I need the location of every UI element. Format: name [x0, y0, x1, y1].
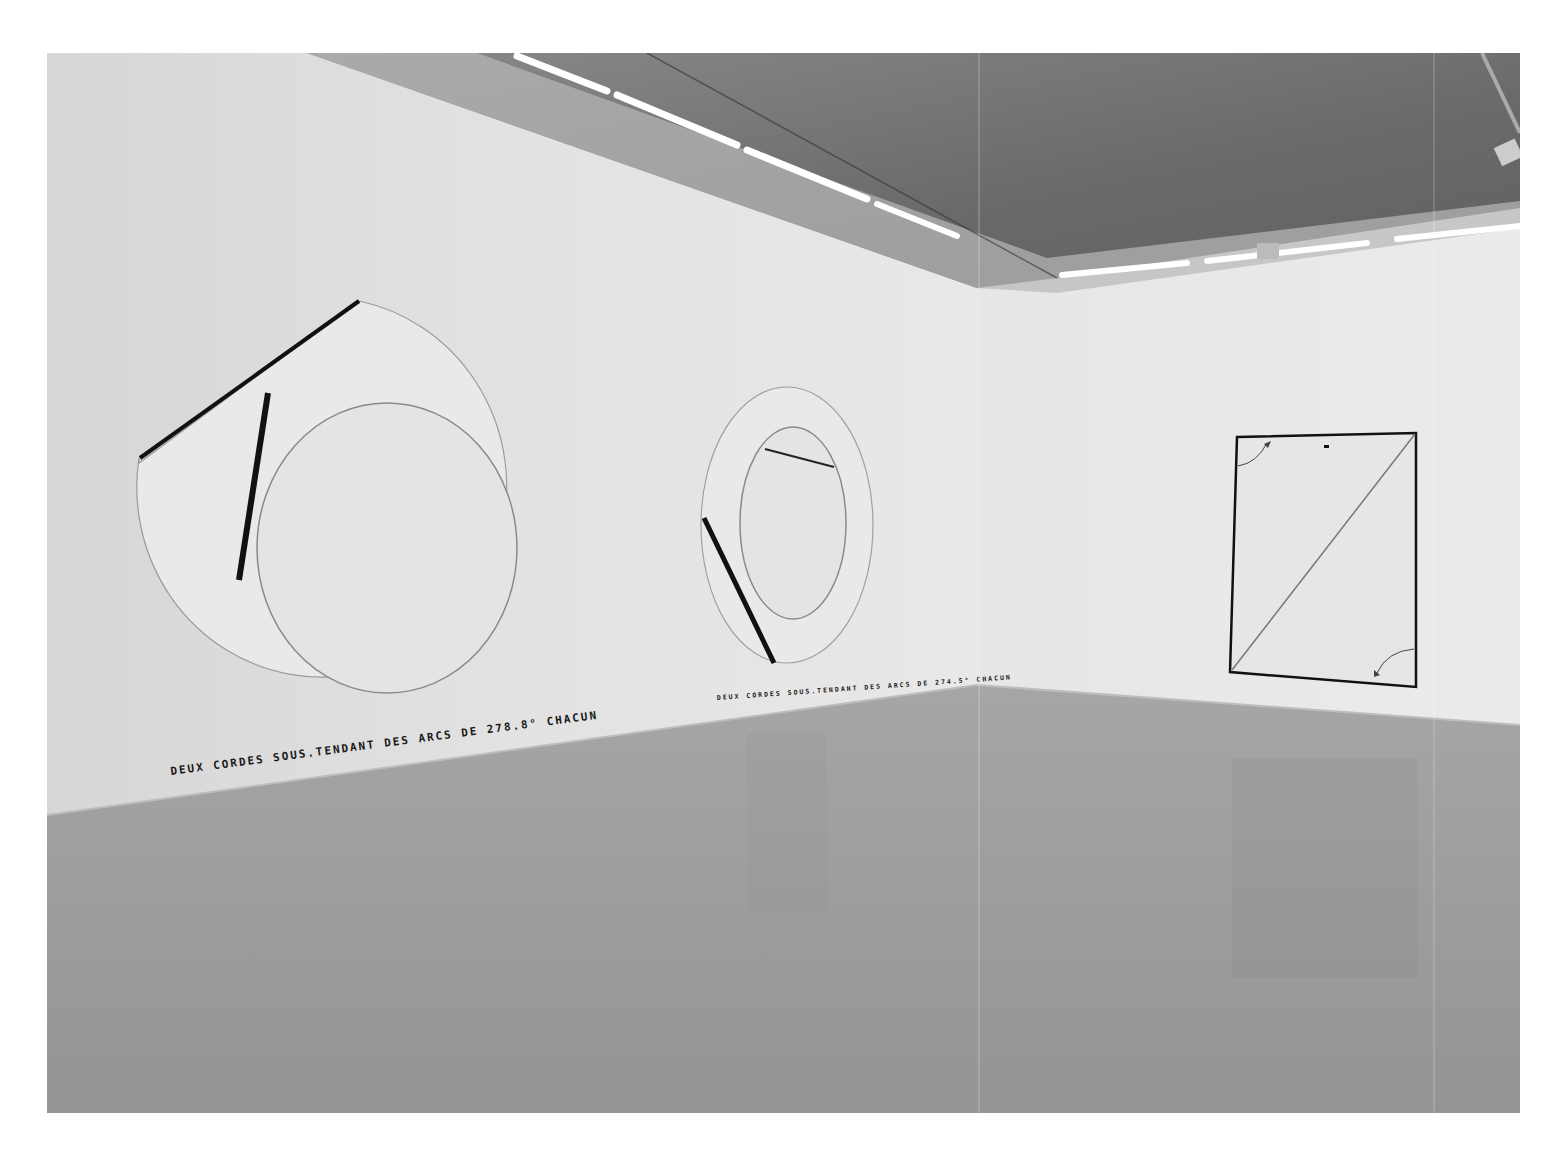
artwork-rectangle-diagonal	[1230, 433, 1416, 687]
gallery-photo: DEUX CORDES SOUS.TENDANT DES ARCS DE 278…	[47, 53, 1520, 1113]
gallery-scene: DEUX CORDES SOUS.TENDANT DES ARCS DE 278…	[47, 53, 1520, 1113]
artwork-oval-ring	[701, 387, 873, 663]
